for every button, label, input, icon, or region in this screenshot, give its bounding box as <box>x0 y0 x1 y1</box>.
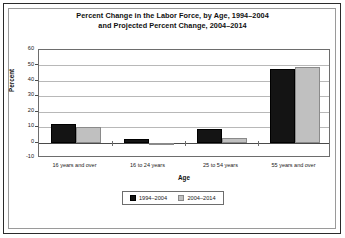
bar <box>270 69 295 143</box>
chart-legend: 1994–20042004–2014 <box>122 191 224 205</box>
legend-entry: 1994–2004 <box>130 195 168 201</box>
y-tick-label: 60 <box>12 46 34 52</box>
y-tick-label: 50 <box>12 62 34 68</box>
bar <box>295 67 320 143</box>
bar <box>124 139 149 143</box>
y-tick-label: 10 <box>12 123 34 129</box>
y-tick-label: 30 <box>12 92 34 98</box>
legend-entry: 2004–2014 <box>178 195 216 201</box>
x-category-label: 16 years and over <box>38 162 111 168</box>
y-tick-label: 0 <box>12 139 34 145</box>
plot-area <box>38 49 330 157</box>
legend-label: 1994–2004 <box>139 195 167 201</box>
gridline <box>39 65 329 66</box>
chart-title-line-1: Percent Change in the Labor Force, by Ag… <box>0 11 345 21</box>
bar <box>149 143 174 145</box>
bar <box>222 138 247 143</box>
group-separator-tick <box>185 141 186 146</box>
x-category-label: 16 to 24 years <box>111 162 184 168</box>
bar <box>197 129 222 143</box>
bar <box>76 127 101 142</box>
legend-swatch-icon <box>178 195 184 201</box>
chart-title-line-2: and Projected Percent Change, 2004–2014 <box>0 21 345 31</box>
legend-label: 2004–2014 <box>188 195 216 201</box>
x-axis-title: Age <box>38 174 330 181</box>
x-category-label: 25 to 54 years <box>184 162 257 168</box>
group-separator-tick <box>112 141 113 146</box>
zero-baseline <box>39 143 329 144</box>
y-tick-label: 20 <box>12 108 34 114</box>
x-category-label: 55 years and over <box>257 162 330 168</box>
group-separator-tick <box>258 141 259 146</box>
bar <box>51 124 76 143</box>
y-tick-label: 40 <box>12 77 34 83</box>
legend-swatch-icon <box>130 195 136 201</box>
chart-title: Percent Change in the Labor Force, by Ag… <box>0 11 345 30</box>
y-tick-label: -10 <box>12 154 34 160</box>
